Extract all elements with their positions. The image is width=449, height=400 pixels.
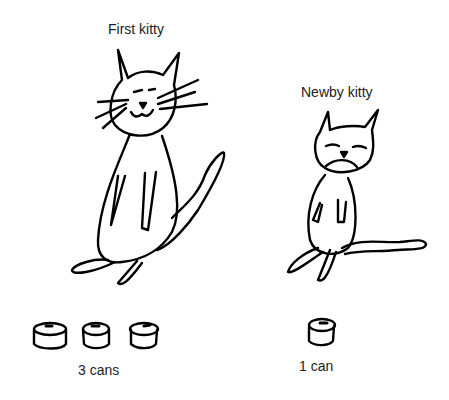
can-icon (83, 323, 109, 348)
can-icon (34, 323, 66, 349)
first-kitty-drawing (72, 50, 224, 284)
first-kitty-body (98, 134, 177, 262)
newby-kitty-drawing (288, 110, 426, 281)
cans-newby-kitty (309, 319, 335, 345)
cans-first-kitty (34, 323, 158, 349)
drawing-canvas (0, 0, 449, 400)
can-icon (130, 323, 158, 348)
newby-kitty-head (315, 110, 378, 172)
newby-kitty-tail (342, 240, 426, 254)
first-kitty-tail (157, 153, 224, 250)
can-icon (309, 319, 335, 345)
